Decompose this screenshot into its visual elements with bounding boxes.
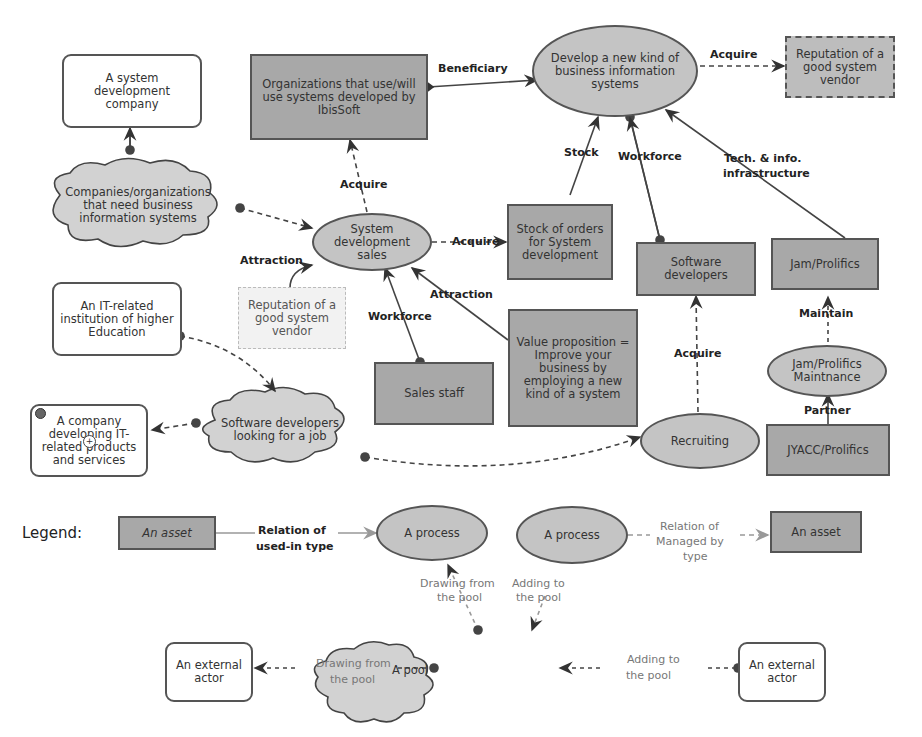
node-system-dev-sales[interactable]: System development sales	[312, 213, 432, 271]
edge-label-workforce-top: Workforce	[618, 150, 682, 163]
legend-asset-2: An asset	[770, 511, 862, 553]
edge-label-stock: Stock	[564, 146, 599, 159]
legend-label-used-in: Relation of	[258, 524, 326, 537]
edge-label-partner: Partner	[804, 404, 851, 417]
legend-label-managed: Relation of	[660, 520, 719, 533]
legend-process-1: A process	[376, 505, 488, 561]
legend-label-adding-2: Adding to	[627, 653, 680, 666]
legend-label-drawing-2: Drawing from	[316, 657, 391, 670]
node-reputation-top[interactable]: Reputation of a good system vendor	[785, 36, 895, 98]
edge-label-maintain: Maintain	[799, 307, 853, 320]
legend-label-adding-1b: the pool	[516, 591, 561, 604]
node-jam-maintenance[interactable]: Jam/Prolifics Maintnance	[767, 345, 887, 397]
legend-label-drawing-1b: the pool	[437, 591, 482, 604]
legend-asset: An asset	[118, 516, 216, 550]
edge-label-beneficiary: Beneficiary	[438, 62, 508, 75]
edge-label-attraction-right: Attraction	[430, 288, 493, 301]
node-it-institution[interactable]: An IT-related institution of higher Educ…	[52, 282, 182, 356]
legend-label-drawing-2b: the pool	[330, 673, 375, 686]
legend-label-used-in-2: used-in type	[256, 540, 333, 553]
edge-label-tech-info: Tech. & info.	[724, 152, 801, 165]
legend-title: Legend:	[22, 524, 82, 542]
legend-label-managed-2: Managed by	[656, 535, 724, 548]
node-jyacc-prolifics[interactable]: JYACC/Prolifics	[766, 424, 890, 476]
legend-process-2: A process	[516, 506, 628, 564]
edge-label-acquire-stock: Acquire	[452, 235, 499, 248]
edge-label-tech-info-2: infrastructure	[723, 167, 810, 180]
collapse-icon[interactable]	[35, 408, 46, 419]
node-sales-staff[interactable]: Sales staff	[374, 362, 494, 425]
node-develop-new-kind[interactable]: Develop a new kind of business informati…	[532, 25, 698, 117]
node-organizations-ibissoft[interactable]: Organizations that use/will use systems …	[250, 54, 428, 140]
edge-label-acquire-software: Acquire	[674, 347, 721, 360]
edge-label-workforce-sales: Workforce	[368, 310, 432, 323]
expand-plus-icon[interactable]: +	[83, 435, 96, 448]
legend-label-adding-1: Adding to	[512, 577, 565, 590]
legend-label-adding-2b: the pool	[626, 669, 671, 682]
legend-actor-right: An external actor	[738, 642, 826, 702]
legend-actor-left: An external actor	[165, 642, 253, 702]
edge-label-acquire-org: Acquire	[340, 178, 387, 191]
node-jam-prolifics[interactable]: Jam/Prolifics	[771, 238, 879, 290]
node-stock-orders[interactable]: Stock of orders for System development	[507, 204, 613, 280]
node-sw-dev-looking[interactable]: Software developers looking for a job	[200, 402, 360, 458]
node-software-developers[interactable]: Software developers	[636, 242, 756, 296]
node-reputation-ghost[interactable]: Reputation of a good system vendor	[238, 287, 346, 349]
edge-label-attraction-left: Attraction	[240, 254, 303, 267]
node-companies-need[interactable]: Companies/organizations that need busine…	[48, 170, 228, 240]
edge-label-acquire-reputation: Acquire	[710, 48, 757, 61]
node-value-proposition[interactable]: Value proposition = Improve your busines…	[508, 309, 638, 427]
node-recruiting[interactable]: Recruiting	[640, 413, 760, 469]
node-system-development-company[interactable]: A system development company	[62, 54, 202, 128]
legend-label-managed-3: type	[683, 550, 708, 563]
legend-label-drawing-1: Drawing from	[420, 577, 495, 590]
